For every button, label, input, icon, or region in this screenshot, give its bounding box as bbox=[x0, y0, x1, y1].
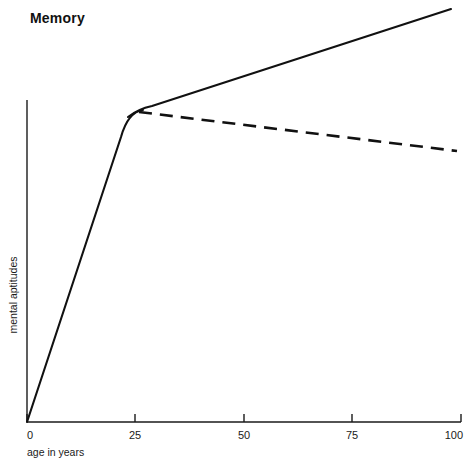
chart-canvas: 0 25 50 75 100 age in years mental aptit… bbox=[0, 0, 474, 461]
series-optimistic-branch bbox=[128, 9, 451, 117]
x-tick-label-50: 50 bbox=[238, 429, 250, 441]
x-tick-label-100: 100 bbox=[445, 429, 463, 441]
series-declining-branch bbox=[139, 112, 457, 151]
x-tick-label-0: 0 bbox=[27, 429, 33, 441]
series-rising-phase bbox=[27, 110, 143, 422]
x-tick-label-25: 25 bbox=[129, 429, 141, 441]
x-axis-ticks bbox=[27, 414, 461, 422]
y-axis-label: mental aptitudes bbox=[7, 256, 19, 333]
x-axis-label: age in years bbox=[27, 446, 84, 458]
chart-page: Memory 0 25 50 75 100 age in years menta… bbox=[0, 0, 474, 461]
x-tick-label-75: 75 bbox=[346, 429, 358, 441]
